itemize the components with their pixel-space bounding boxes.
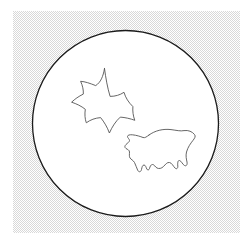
figure-canvas xyxy=(0,0,252,245)
shapes-illustration xyxy=(0,0,252,245)
outer-circle xyxy=(33,31,219,217)
